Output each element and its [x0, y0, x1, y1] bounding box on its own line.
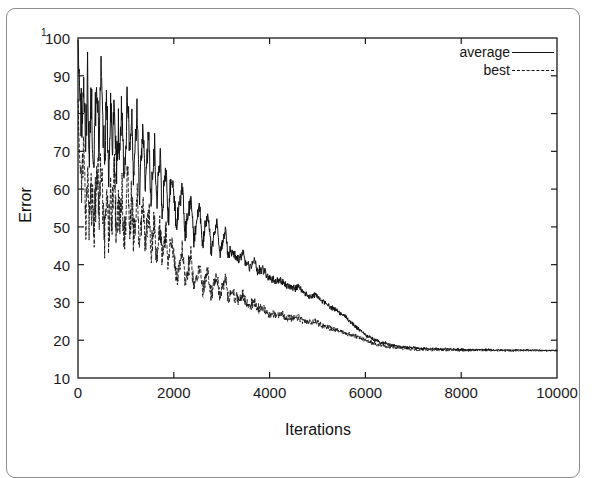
y-tick-label: 50: [30, 220, 70, 235]
x-tick-label: 4000: [240, 385, 300, 400]
series-line-average: [78, 40, 557, 351]
y-tick-label: 30: [30, 295, 70, 310]
y-tick-label: 90: [30, 69, 70, 84]
x-tick-label: 8000: [431, 385, 491, 400]
legend-item-average: average: [444, 44, 554, 61]
y-tick-label: 20: [30, 333, 70, 348]
x-axis-ticks: [174, 38, 461, 378]
chart-legend: averagebest: [444, 44, 554, 80]
legend-swatch-best: [512, 70, 554, 71]
y-axis-title: Error: [17, 170, 35, 240]
legend-item-best: best: [444, 62, 554, 79]
series-line-best: [78, 99, 557, 352]
y-tick-label: 70: [30, 144, 70, 159]
legend-label-average: average: [459, 44, 510, 60]
y-tick-label: 60: [30, 182, 70, 197]
legend-swatch-average: [512, 52, 554, 53]
y-tick-label: 100: [30, 31, 70, 46]
y-tick-label: 10: [30, 371, 70, 386]
x-tick-label: 10000: [527, 385, 587, 400]
x-tick-label: 0: [48, 385, 108, 400]
x-tick-label: 2000: [144, 385, 204, 400]
y-tick-label: 80: [30, 107, 70, 122]
plot-axes-frame: [78, 38, 557, 378]
x-axis-title: Iterations: [218, 421, 418, 439]
y-tick-label: 40: [30, 258, 70, 273]
legend-label-best: best: [484, 62, 510, 78]
data-series-group: [78, 40, 557, 351]
x-tick-label: 6000: [335, 385, 395, 400]
y-axis-ticks: [78, 76, 557, 340]
